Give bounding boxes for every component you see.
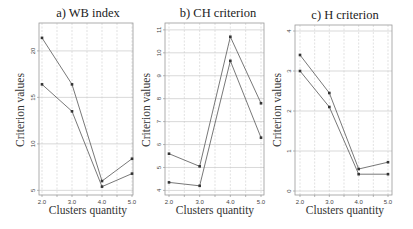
x-axis-label: Clusters quantity	[176, 204, 255, 217]
plot-frame	[39, 23, 133, 195]
panel-title: b) CH criterion	[180, 6, 257, 20]
x-axis-label: Clusters quantity	[306, 204, 385, 217]
y-tick-label: 9	[156, 73, 162, 77]
data-point-marker	[101, 180, 104, 183]
data-point-marker	[198, 185, 201, 188]
y-axis-label: Criterion values	[140, 73, 152, 147]
x-tick-label: 3.0	[325, 199, 334, 205]
data-point-marker	[131, 172, 134, 175]
y-tick-label: 10	[156, 49, 162, 56]
panel-title: a) WB index	[56, 6, 120, 20]
x-tick-label: 5.0	[128, 199, 137, 205]
y-tick-label: 10	[30, 140, 36, 147]
data-point-marker	[328, 92, 331, 95]
x-tick-label: 2.0	[165, 199, 174, 205]
x-tick-label: 3.0	[195, 199, 204, 205]
x-tick-label: 2.0	[296, 199, 305, 205]
data-point-marker	[168, 181, 171, 184]
panel-a-wb-index: a) WB index Criterion values Clusters qu…	[14, 6, 137, 217]
y-axis-label: Criterion values	[14, 73, 26, 147]
data-point-marker	[260, 102, 263, 105]
data-point-marker	[229, 60, 232, 63]
panel-b-ch-criterion: b) CH criterion Criterion values Cluster…	[140, 6, 266, 217]
data-point-marker	[260, 136, 263, 139]
y-tick-label: 4	[156, 188, 162, 192]
x-axis-label: Clusters quantity	[49, 204, 128, 217]
plot-area: 012342.03.04.05.0	[286, 25, 393, 205]
data-point-marker	[41, 37, 44, 40]
data-point-marker	[299, 54, 302, 57]
data-point-marker	[328, 106, 331, 109]
y-tick-label: 8	[156, 96, 162, 100]
y-tick-label: 6	[156, 142, 162, 146]
data-point-marker	[357, 168, 360, 171]
y-tick-label: 11	[156, 26, 162, 33]
y-tick-label: 1	[286, 149, 292, 153]
y-tick-label: 7	[156, 119, 162, 123]
data-point-marker	[168, 152, 171, 155]
y-tick-label: 20	[30, 47, 36, 54]
y-tick-label: 5	[156, 165, 162, 169]
data-point-marker	[198, 165, 201, 168]
plot-area: 51015202.03.04.05.0	[30, 23, 137, 205]
data-point-marker	[357, 173, 360, 176]
data-point-marker	[101, 185, 104, 188]
data-point-marker	[387, 173, 390, 176]
x-tick-label: 5.0	[257, 199, 266, 205]
x-tick-label: 4.0	[226, 199, 235, 205]
plot-frame	[295, 25, 392, 195]
x-tick-label: 4.0	[98, 199, 107, 205]
y-tick-label: 15	[30, 93, 36, 100]
data-point-marker	[41, 83, 44, 86]
data-point-marker	[71, 83, 74, 86]
y-tick-label: 3	[286, 69, 292, 73]
y-tick-label: 5	[30, 188, 36, 192]
y-axis-label: Criterion values	[271, 73, 283, 147]
data-point-marker	[131, 157, 134, 160]
panel-c-h-criterion: c) H criterion Criterion values Clusters…	[271, 8, 393, 217]
y-tick-label: 0	[286, 189, 292, 193]
x-tick-label: 4.0	[354, 199, 363, 205]
plot-area: 45678910112.03.04.05.0	[156, 23, 266, 205]
y-tick-label: 2	[286, 109, 292, 113]
panel-title: c) H criterion	[311, 8, 379, 22]
figure: a) WB index Criterion values Clusters qu…	[0, 0, 413, 229]
data-point-marker	[71, 110, 74, 113]
data-point-marker	[229, 35, 232, 38]
data-point-marker	[387, 161, 390, 164]
y-tick-label: 4	[286, 29, 292, 33]
x-tick-label: 2.0	[38, 199, 47, 205]
x-tick-label: 5.0	[384, 199, 393, 205]
x-tick-label: 3.0	[68, 199, 77, 205]
data-point-marker	[299, 70, 302, 73]
